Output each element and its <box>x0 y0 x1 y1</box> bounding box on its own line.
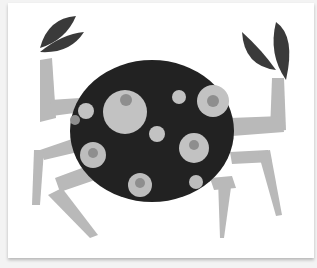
right-leg-2-foot <box>218 180 232 238</box>
spot-ring <box>207 95 219 107</box>
spot <box>78 103 94 119</box>
spot-ring <box>120 94 132 106</box>
spot <box>149 126 165 142</box>
crab-illustration <box>0 0 317 268</box>
spot-ring <box>135 178 145 188</box>
spot <box>172 90 186 104</box>
right-claw-right <box>274 22 290 80</box>
left-leg-1-foot <box>32 150 44 205</box>
spot-ring <box>88 148 98 158</box>
spot <box>189 175 203 189</box>
right-leg-1-foot <box>258 150 282 216</box>
spot <box>70 115 80 125</box>
spot-ring <box>189 140 199 150</box>
left-leg-2-foot <box>48 188 98 238</box>
right-claw-left <box>242 32 276 70</box>
right-arm-lower <box>230 116 284 136</box>
